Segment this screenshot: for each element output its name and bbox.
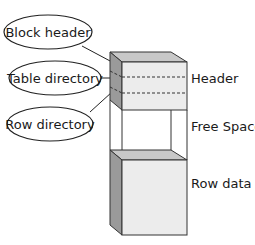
header-side-face xyxy=(110,52,122,110)
section-label-header: Header xyxy=(191,71,239,86)
callout-block-header-label: Block header xyxy=(5,25,91,40)
callout-row-directory-label: Row directory xyxy=(5,117,95,132)
callout-table-directory: Table directory xyxy=(6,61,103,95)
database-block-diagram: Block header Table directory Row directo… xyxy=(0,0,255,245)
row-data-section xyxy=(110,150,187,235)
connector-row-directory xyxy=(90,92,112,112)
header-section xyxy=(110,52,187,110)
row-data-front-face xyxy=(122,160,187,235)
callout-block-header: Block header xyxy=(4,15,92,49)
header-top-face xyxy=(110,52,187,62)
connector-block-header xyxy=(82,46,112,62)
callout-row-directory: Row directory xyxy=(5,107,95,141)
callout-table-directory-label: Table directory xyxy=(6,71,103,86)
section-label-row-data: Row data xyxy=(191,176,251,191)
row-data-top-face xyxy=(110,150,187,160)
row-data-side-face xyxy=(110,150,122,235)
section-label-free-space: Free Space xyxy=(191,119,255,134)
header-front-face xyxy=(122,62,187,110)
